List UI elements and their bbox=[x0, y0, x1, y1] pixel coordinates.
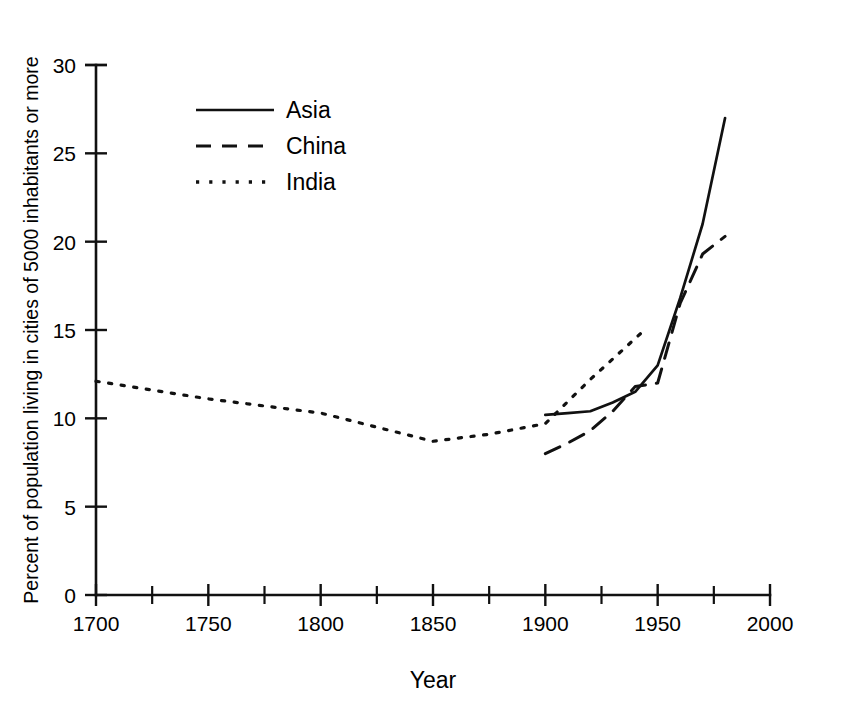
data-series-group bbox=[96, 118, 725, 454]
y-tick-label-0: 0 bbox=[64, 584, 76, 607]
y-tick-label-10: 10 bbox=[53, 407, 76, 430]
x-tick-label-1800: 1800 bbox=[297, 612, 344, 635]
y-axis: 051015202530 bbox=[53, 54, 107, 607]
y-tick-label-15: 15 bbox=[53, 319, 76, 342]
y-tick-label-25: 25 bbox=[53, 142, 76, 165]
x-axis-title: Year bbox=[410, 667, 457, 693]
series-line-asia bbox=[545, 118, 725, 415]
y-axis-title: Percent of population living in cities o… bbox=[20, 56, 42, 603]
legend-label-china: China bbox=[286, 133, 346, 159]
legend-label-asia: Asia bbox=[286, 97, 331, 123]
chart-container: 051015202530 170017501800185019001950200… bbox=[0, 0, 848, 708]
series-line-india bbox=[96, 328, 646, 441]
y-tick-label-20: 20 bbox=[53, 231, 76, 254]
legend-label-india: India bbox=[286, 169, 336, 195]
chart-legend: AsiaChinaIndia bbox=[196, 97, 346, 195]
x-tick-label-1700: 1700 bbox=[73, 612, 120, 635]
y-tick-label-30: 30 bbox=[53, 54, 76, 77]
series-line-china bbox=[545, 236, 725, 453]
x-tick-label-1900: 1900 bbox=[522, 612, 569, 635]
x-tick-label-1850: 1850 bbox=[410, 612, 457, 635]
x-axis: 1700175018001850190019502000 bbox=[73, 584, 794, 635]
x-tick-label-1750: 1750 bbox=[185, 612, 232, 635]
y-tick-label-5: 5 bbox=[64, 496, 76, 519]
x-tick-label-2000: 2000 bbox=[747, 612, 794, 635]
line-chart: 051015202530 170017501800185019001950200… bbox=[0, 0, 848, 708]
x-tick-label-1950: 1950 bbox=[634, 612, 681, 635]
